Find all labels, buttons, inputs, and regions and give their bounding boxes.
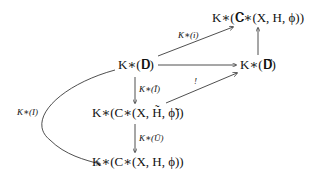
node-top-right: K∗(𝐂∗(X, H, ϕ))	[212, 10, 304, 26]
label-u-tilde: K∗(Ũ)	[139, 133, 164, 143]
node-d-tilde: K∗(𝐃̃)	[240, 57, 276, 73]
arrow-unique	[166, 73, 237, 103]
node-middle: K∗(C∗(X, H̃, ϕ̃))	[92, 105, 184, 121]
label-i-tilde: K∗(Ĩ)	[139, 84, 160, 94]
label-unique: !	[194, 76, 197, 86]
label-i: K∗(i)	[178, 30, 199, 40]
label-l: K∗(I)	[17, 107, 38, 117]
node-bottom: K∗(C∗(X, H, ϕ))	[92, 154, 184, 170]
node-d: K∗(𝐃)	[118, 57, 154, 73]
